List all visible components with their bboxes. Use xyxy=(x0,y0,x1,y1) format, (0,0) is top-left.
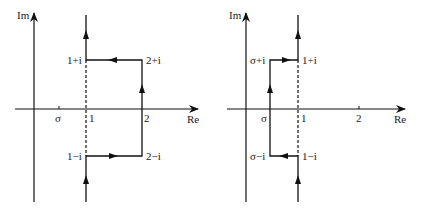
im-label: Im xyxy=(17,9,30,21)
arrow-left-icon xyxy=(108,57,117,63)
vertex-bottom-right: 2−i xyxy=(146,150,161,162)
tick-2-label: 2 xyxy=(144,112,150,124)
contour-diagrams: Im Re σ 1 2 1+i 2+i 1−i 2−i Im Re σ 1 2 … xyxy=(0,0,422,212)
vertex-bottom-right: 1−i xyxy=(302,150,317,162)
arrow-up-icon xyxy=(295,175,301,184)
sigma-label: σ xyxy=(55,112,61,124)
arrow-up-icon xyxy=(295,30,301,39)
right-panel: Im Re σ 1 2 σ+i 1+i σ−i 1−i xyxy=(227,9,406,202)
tick-2-label: 2 xyxy=(356,112,362,124)
arrow-up-icon xyxy=(83,30,89,39)
vertex-top-left: 1+i xyxy=(67,54,82,66)
re-label: Re xyxy=(394,113,406,125)
arrow-left-icon xyxy=(279,153,288,159)
im-label: Im xyxy=(229,9,242,21)
diagram-svg: Im Re σ 1 2 1+i 2+i 1−i 2−i Im Re σ 1 2 … xyxy=(0,0,422,212)
arrow-up-icon xyxy=(139,84,145,93)
vertex-top-right: 2+i xyxy=(146,54,161,66)
arrow-right-icon xyxy=(109,153,118,159)
arrow-up-icon xyxy=(83,175,89,184)
arrow-right-icon xyxy=(282,57,291,63)
vertex-bottom-left: 1−i xyxy=(67,150,82,162)
vertex-top-right: 1+i xyxy=(302,54,317,66)
tick-1-label: 1 xyxy=(301,112,307,124)
arrow-up-icon xyxy=(267,84,273,93)
vertex-bottom-left: σ−i xyxy=(250,150,265,162)
re-label: Re xyxy=(187,113,199,125)
sigma-label: σ xyxy=(261,112,267,124)
left-panel: Im Re σ 1 2 1+i 2+i 1−i 2−i xyxy=(15,9,199,202)
vertex-top-left: σ+i xyxy=(250,54,265,66)
tick-1-label: 1 xyxy=(89,112,95,124)
